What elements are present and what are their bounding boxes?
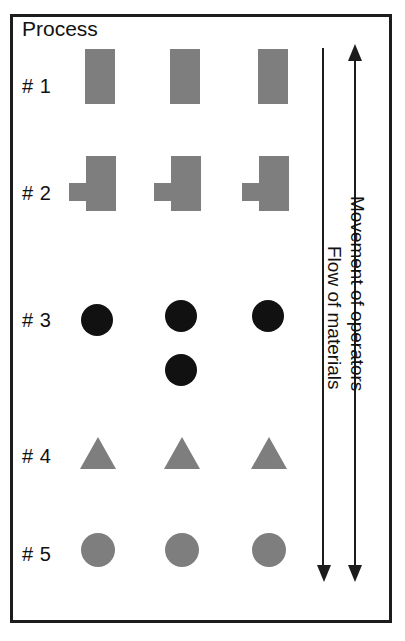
row-label-process-4: # 4 xyxy=(22,446,51,466)
flow-of-materials-label: Flow of materials xyxy=(325,246,344,390)
arrow-down-icon-materials xyxy=(317,565,331,582)
process-4-station-1 xyxy=(80,437,116,469)
process-1-station-3 xyxy=(258,49,288,104)
process-2-station-2 xyxy=(171,156,201,211)
process-3-station-2-extra xyxy=(165,354,197,386)
process-3-station-1 xyxy=(81,304,113,336)
process-2-station-1 xyxy=(86,156,116,211)
row-label-process-3: # 3 xyxy=(22,310,51,330)
arrow-down-icon-operators xyxy=(348,565,362,582)
arrow-up-icon-operators xyxy=(348,44,362,61)
process-4-station-3 xyxy=(251,437,287,469)
diagram-canvas: Process # 1 # 2 # 3 # 4 # 5 Movement of … xyxy=(0,0,405,641)
process-1-station-2 xyxy=(170,49,200,104)
process-5-station-2 xyxy=(165,533,199,567)
row-label-process-1: # 1 xyxy=(22,76,51,96)
process-1-station-1 xyxy=(85,49,115,104)
row-label-process-5: # 5 xyxy=(22,544,51,564)
process-2-station-3 xyxy=(259,156,289,211)
page-title: Process xyxy=(22,18,98,39)
process-5-station-1 xyxy=(81,533,115,567)
process-4-station-2 xyxy=(164,437,200,469)
process-3-station-2 xyxy=(165,300,197,332)
row-label-process-2: # 2 xyxy=(22,183,51,203)
process-5-station-3 xyxy=(252,533,286,567)
movement-of-operators-label: Movement of operators xyxy=(348,196,367,391)
process-3-station-3 xyxy=(252,300,284,332)
